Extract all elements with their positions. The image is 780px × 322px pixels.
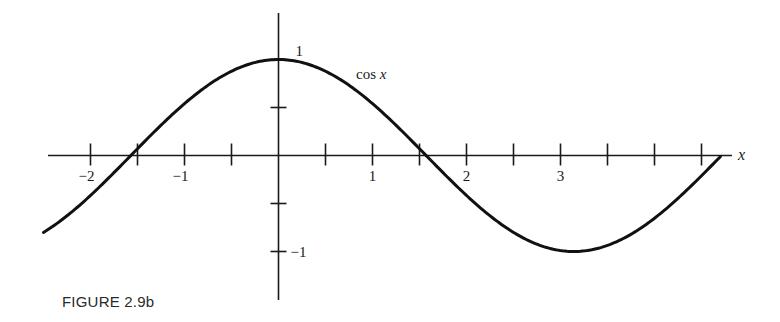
- x-tick-label: 3: [557, 168, 565, 184]
- y-tick-label: 1: [296, 43, 304, 59]
- y-tick-labels: 1−1: [291, 43, 307, 260]
- x-ticks: [91, 144, 702, 166]
- x-tick-label: −2: [79, 168, 95, 184]
- x-tick-labels: −2−1123: [79, 168, 565, 184]
- cosine-plot: −2−1123 1−1 cos x x: [0, 0, 780, 322]
- curve-label: cos x: [356, 66, 387, 82]
- x-tick-label: 1: [369, 168, 377, 184]
- figure-caption: FIGURE 2.9b: [62, 293, 154, 310]
- x-tick-label: −1: [173, 168, 189, 184]
- x-axis-label: x: [737, 146, 745, 163]
- x-tick-label: 2: [463, 168, 471, 184]
- y-tick-label: −1: [291, 244, 307, 260]
- axes: [48, 13, 732, 300]
